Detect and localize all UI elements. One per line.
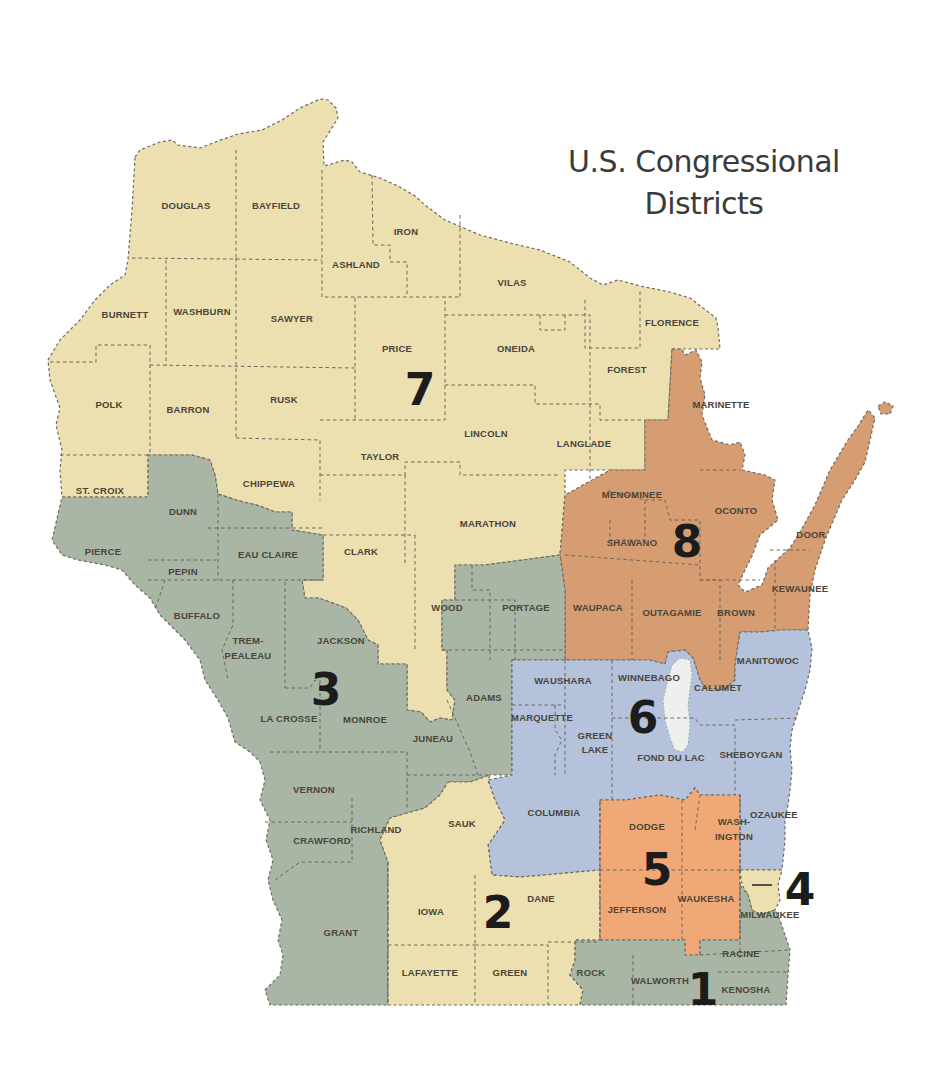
district-number-1: 1 [688, 964, 719, 1015]
county-label: TAYLOR [361, 451, 400, 462]
county-label: PEPIN [168, 566, 198, 577]
county-label: INGTON [715, 831, 753, 842]
county-label: RACINE [722, 948, 760, 959]
county-label: BARRON [167, 404, 210, 415]
county-label: PORTAGE [502, 602, 550, 613]
county-label: SAUK [448, 818, 476, 829]
county-label: WAUPACA [573, 602, 623, 613]
county-label: CRAWFORD [293, 835, 351, 846]
county-label: WINNEBAGO [618, 672, 680, 683]
county-label: MONROE [343, 714, 387, 725]
county-label: IRON [394, 226, 419, 237]
county-label: EAU CLAIRE [238, 549, 298, 560]
county-label: PRICE [382, 343, 412, 354]
county-label: RICHLAND [350, 824, 401, 835]
county-label: DUNN [169, 506, 197, 517]
washington-island [878, 402, 893, 414]
district-number-7: 7 [405, 364, 436, 415]
county-label: WOOD [431, 602, 462, 613]
county-label: MANITOWOC [737, 655, 799, 666]
county-label: LAKE [582, 744, 609, 755]
county-label: WASHBURN [173, 306, 231, 317]
county-label: IOWA [418, 906, 444, 917]
county-label: DOOR [796, 529, 825, 540]
county-label: ST. CROIX [76, 485, 125, 496]
county-label: TREM- [232, 635, 263, 646]
county-label: DOUGLAS [162, 200, 211, 211]
district-number-4: 4 [785, 864, 816, 915]
county-label: PIERCE [85, 546, 122, 557]
county-label: MARATHON [460, 518, 516, 529]
county-label: CHIPPEWA [243, 478, 295, 489]
county-label: WAUSHARA [534, 675, 592, 686]
county-label: DODGE [629, 821, 665, 832]
county-label: KENOSHA [722, 984, 771, 995]
county-label: DANE [527, 893, 555, 904]
map-title-line-2: Districts [645, 186, 764, 221]
county-label: BUFFALO [174, 610, 220, 621]
county-label: GREEN [493, 967, 528, 978]
county-label: ONEIDA [497, 343, 535, 354]
county-label: WALWORTH [631, 975, 689, 986]
county-label: FOND DU LAC [637, 752, 705, 763]
county-label: LA CROSSE [261, 713, 318, 724]
county-label: SHEBOYGAN [719, 749, 782, 760]
county-label: FLORENCE [645, 317, 699, 328]
county-label: ADAMS [466, 692, 502, 703]
county-label: OZAUKEE [750, 809, 798, 820]
county-label: SAWYER [271, 313, 313, 324]
county-label: RUSK [270, 394, 298, 405]
district-number-8: 8 [672, 516, 703, 567]
district-number-6: 6 [628, 692, 659, 743]
county-label: JUNEAU [413, 733, 453, 744]
wisconsin-congressional-district-map: U.S. Congressional Districts DOUGLASBAYF… [0, 0, 945, 1065]
county-label: PEALEAU [225, 650, 272, 661]
county-label: FOREST [607, 364, 647, 375]
county-label: GREEN [578, 730, 613, 741]
map-title-line-1: U.S. Congressional [568, 144, 840, 179]
county-label: BROWN [717, 607, 755, 618]
county-label: MENOMINEE [602, 489, 662, 500]
county-label: JACKSON [317, 635, 365, 646]
county-label: JEFFERSON [608, 904, 667, 915]
district-number-2: 2 [483, 887, 514, 938]
county-label: WASH- [718, 816, 751, 827]
county-label: ASHLAND [332, 259, 380, 270]
county-label: MARQUETTE [511, 712, 573, 723]
county-label: LAFAYETTE [402, 967, 458, 978]
county-label: VERNON [293, 784, 335, 795]
county-label: ROCK [577, 967, 606, 978]
county-label: LANGLADE [557, 438, 611, 449]
county-label: KEWAUNEE [772, 583, 829, 594]
county-label: WAUKESHA [677, 893, 734, 904]
county-label: OUTAGAMIE [642, 607, 701, 618]
county-label: COLUMBIA [528, 807, 581, 818]
county-label: OCONTO [715, 505, 758, 516]
county-label: CLARK [344, 546, 378, 557]
county-label: VILAS [498, 277, 527, 288]
county-label: POLK [95, 399, 122, 410]
county-label: CALUMET [694, 682, 742, 693]
county-label: MARINETTE [692, 399, 749, 410]
county-label: BURNETT [102, 309, 149, 320]
county-label: GRANT [324, 927, 359, 938]
district-number-3: 3 [311, 664, 342, 715]
county-label: BAYFIELD [252, 200, 300, 211]
district-number-5: 5 [642, 844, 673, 895]
county-label: SHAWANO [607, 537, 658, 548]
county-label: LINCOLN [464, 428, 508, 439]
